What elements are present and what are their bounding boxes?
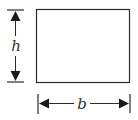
height-dimension: h	[7, 10, 24, 82]
width-dimension: b	[38, 94, 130, 114]
arrow-right-icon	[119, 99, 129, 109]
arrow-down-icon	[11, 71, 21, 81]
rectangle-shape	[37, 10, 130, 83]
width-label: b	[77, 95, 87, 113]
height-label: h	[11, 37, 21, 55]
arrow-up-icon	[11, 11, 21, 21]
rectangle-dimension-diagram: h b	[0, 0, 138, 120]
arrow-left-icon	[39, 99, 49, 109]
